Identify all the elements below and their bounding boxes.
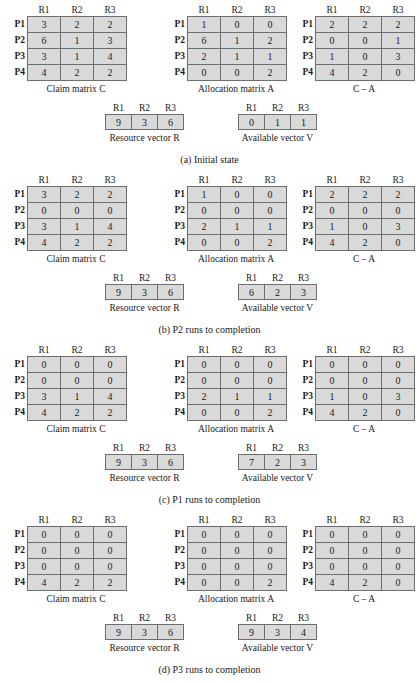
state-block-0: R1R2R3P1322P2613P3314P4422Claim matrix C… bbox=[0, 0, 419, 170]
matrix-cell: 3 bbox=[382, 219, 415, 235]
matrix-cell: 0 bbox=[28, 543, 61, 559]
column-header-r3: R3 bbox=[158, 442, 184, 455]
matrix-cell: 2 bbox=[94, 405, 127, 421]
matrix-cell: 0 bbox=[382, 235, 415, 251]
matrix-row: P4422 bbox=[8, 65, 127, 81]
vector-cell: 2 bbox=[265, 455, 291, 470]
matrix-corner-spacer bbox=[296, 4, 316, 17]
matrix-cell: 0 bbox=[316, 373, 349, 389]
vector-cell: 9 bbox=[106, 115, 132, 130]
difference-matrix-table: R1R2R3P1222P2001P3103P4420 bbox=[296, 4, 415, 81]
available-vector-caption: Available vector V bbox=[238, 132, 317, 144]
matrix-row: P1322 bbox=[8, 187, 127, 203]
matrix-row: P2000 bbox=[296, 543, 415, 559]
matrix-row: P1100 bbox=[168, 17, 287, 33]
row-header-p1: P1 bbox=[168, 357, 188, 373]
matrix-cell: 0 bbox=[188, 357, 221, 373]
matrix-corner-spacer bbox=[8, 514, 28, 527]
matrix-row: P3211 bbox=[168, 389, 287, 405]
available-vector-table: R1R2R3723 bbox=[238, 442, 317, 470]
matrix-cell: 0 bbox=[28, 527, 61, 543]
matrix-row: P4002 bbox=[168, 405, 287, 421]
column-header-r1: R1 bbox=[28, 344, 61, 357]
matrix-cell: 4 bbox=[316, 575, 349, 591]
vector-cell: 4 bbox=[291, 625, 317, 640]
vector-value-row: 723 bbox=[239, 455, 317, 470]
row-header-p1: P1 bbox=[296, 357, 316, 373]
column-header-r2: R2 bbox=[349, 514, 382, 527]
available-vector-table: R1R2R3623 bbox=[238, 272, 317, 300]
difference-matrix-table: R1R2R3P1222P2000P3103P4420 bbox=[296, 174, 415, 251]
matrix-cell: 0 bbox=[61, 559, 94, 575]
matrices-row: R1R2R3P1000P2000P3000P4422Claim matrix C… bbox=[0, 510, 419, 610]
column-header-r3: R3 bbox=[254, 4, 287, 17]
column-header-r3: R3 bbox=[382, 344, 415, 357]
vector-header-row: R1R2R3 bbox=[106, 272, 184, 285]
matrix-header-row: R1R2R3 bbox=[168, 344, 287, 357]
matrix-row: P4002 bbox=[168, 235, 287, 251]
claim-matrix: R1R2R3P1322P2613P3314P4422Claim matrix C bbox=[8, 4, 127, 95]
vector-value-row: 623 bbox=[239, 285, 317, 300]
row-header-p4: P4 bbox=[8, 235, 28, 251]
matrix-cell: 2 bbox=[254, 33, 287, 49]
vector-cell: 6 bbox=[158, 115, 184, 130]
column-header-r3: R3 bbox=[291, 272, 317, 285]
matrix-cell: 2 bbox=[61, 575, 94, 591]
row-header-p2: P2 bbox=[296, 203, 316, 219]
matrix-cell: 0 bbox=[221, 373, 254, 389]
allocation-matrix-table: R1R2R3P1000P2000P3211P4002 bbox=[168, 344, 287, 421]
row-header-p3: P3 bbox=[296, 219, 316, 235]
matrix-cell: 3 bbox=[28, 187, 61, 203]
matrix-header-row: R1R2R3 bbox=[8, 514, 127, 527]
matrix-cell: 0 bbox=[382, 575, 415, 591]
column-header-r2: R2 bbox=[132, 442, 158, 455]
row-header-p3: P3 bbox=[8, 49, 28, 65]
matrix-row: P2000 bbox=[296, 373, 415, 389]
resource-vector-table: R1R2R3936 bbox=[105, 102, 184, 130]
state-caption-2: (c) P1 runs to completion bbox=[0, 493, 419, 506]
column-header-r2: R2 bbox=[61, 174, 94, 187]
matrix-cell: 1 bbox=[254, 49, 287, 65]
column-header-r3: R3 bbox=[94, 174, 127, 187]
column-header-r1: R1 bbox=[106, 102, 132, 115]
matrix-cell: 0 bbox=[349, 33, 382, 49]
matrix-row: P4422 bbox=[8, 235, 127, 251]
claim-matrix-table: R1R2R3P1322P2000P3314P4422 bbox=[8, 174, 127, 251]
row-header-p2: P2 bbox=[8, 543, 28, 559]
vector-value-row: 936 bbox=[106, 625, 184, 640]
vectors-row: R1R2R3936Resource vector RR1R2R3934Avail… bbox=[0, 610, 419, 658]
resource-vector-caption: Resource vector R bbox=[105, 642, 184, 654]
vector-cell: 3 bbox=[132, 285, 158, 300]
row-header-p1: P1 bbox=[8, 527, 28, 543]
claim-matrix: R1R2R3P1322P2000P3314P4422Claim matrix C bbox=[8, 174, 127, 265]
vectors-row: R1R2R3936Resource vector RR1R2R3011Avail… bbox=[0, 100, 419, 148]
column-header-r3: R3 bbox=[158, 272, 184, 285]
matrix-cell: 0 bbox=[188, 65, 221, 81]
matrix-cell: 3 bbox=[28, 219, 61, 235]
matrix-cell: 0 bbox=[61, 527, 94, 543]
column-header-r1: R1 bbox=[239, 102, 265, 115]
column-header-r2: R2 bbox=[265, 102, 291, 115]
matrix-cell: 0 bbox=[349, 527, 382, 543]
row-header-p4: P4 bbox=[296, 235, 316, 251]
matrix-cell: 0 bbox=[188, 527, 221, 543]
matrix-cell: 0 bbox=[221, 65, 254, 81]
matrix-cell: 0 bbox=[221, 187, 254, 203]
column-header-r2: R2 bbox=[265, 442, 291, 455]
matrix-cell: 4 bbox=[94, 219, 127, 235]
matrix-cell: 0 bbox=[382, 373, 415, 389]
resource-vector-table: R1R2R3936 bbox=[105, 612, 184, 640]
vector-cell: 2 bbox=[265, 285, 291, 300]
matrix-row: P1000 bbox=[8, 527, 127, 543]
matrix-header-row: R1R2R3 bbox=[8, 344, 127, 357]
vector-cell: 3 bbox=[132, 115, 158, 130]
allocation-matrix-caption: Allocation matrix A bbox=[168, 423, 287, 435]
matrix-cell: 4 bbox=[28, 405, 61, 421]
column-header-r1: R1 bbox=[188, 4, 221, 17]
column-header-r1: R1 bbox=[106, 272, 132, 285]
row-header-p4: P4 bbox=[8, 65, 28, 81]
matrix-cell: 2 bbox=[349, 575, 382, 591]
matrix-cell: 2 bbox=[188, 219, 221, 235]
resource-vector: R1R2R3936Resource vector R bbox=[105, 612, 184, 654]
row-header-p1: P1 bbox=[168, 187, 188, 203]
